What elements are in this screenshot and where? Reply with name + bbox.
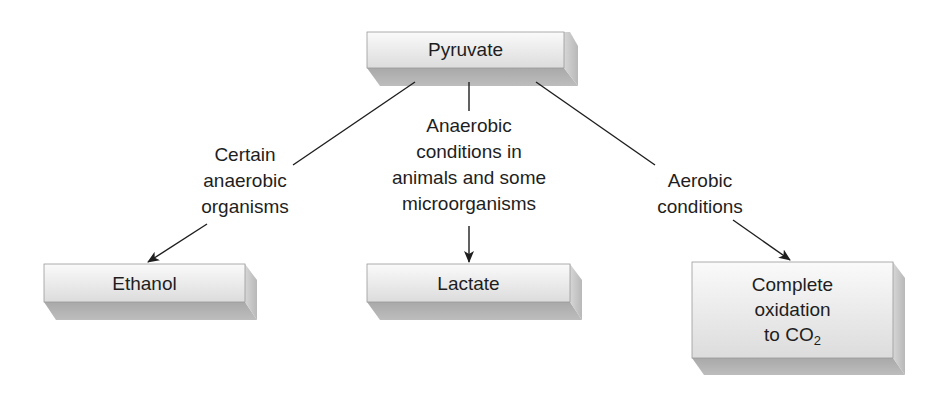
edge-label-ethanol-line-1: Certain: [180, 142, 310, 168]
box-bottom-bevel: [692, 358, 905, 375]
edge-label-complete-oxidation-line-2: conditions: [640, 194, 760, 220]
complete-oxidation-label: Complete oxidation to CO2: [692, 272, 893, 347]
edge-label-lactate-line-4: microorganisms: [384, 191, 554, 217]
box-bottom-bevel: [44, 302, 257, 320]
complete-oxidation-line-2: oxidation: [692, 297, 893, 322]
edge-arrow-to-complete-oxidation: [733, 220, 790, 260]
co2-subscript: 2: [814, 333, 821, 348]
complete-oxidation-line-3: to CO2: [692, 322, 893, 347]
edge-label-lactate-line-3: animals and some: [384, 165, 554, 191]
edge-label-ethanol-line-3: organisms: [180, 194, 310, 220]
edge-label-lactate: Anaerobic conditions in animals and some…: [384, 113, 554, 217]
edge-arrow-to-ethanol: [148, 224, 207, 262]
pyruvate-label: Pyruvate: [367, 38, 564, 61]
box-bottom-bevel: [367, 68, 578, 86]
ethanol-label: Ethanol: [44, 272, 245, 295]
complete-oxidation-line-1: Complete: [692, 272, 893, 297]
edge-label-lactate-line-2: conditions in: [384, 139, 554, 165]
edge-label-ethanol: Certain anaerobic organisms: [180, 142, 310, 220]
co2-prefix: to CO: [764, 324, 814, 345]
edge-label-ethanol-line-2: anaerobic: [180, 168, 310, 194]
lactate-label: Lactate: [367, 272, 570, 295]
edge-label-complete-oxidation: Aerobic conditions: [640, 168, 760, 220]
edge-label-lactate-line-1: Anaerobic: [384, 113, 554, 139]
box-bottom-bevel: [367, 302, 582, 320]
box-side-bevel: [893, 262, 905, 375]
edge-label-complete-oxidation-line-1: Aerobic: [640, 168, 760, 194]
